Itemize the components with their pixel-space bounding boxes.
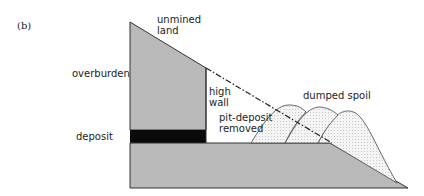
unmined-land-label-1: unmined xyxy=(157,14,201,25)
pit-deposit-label-2: removed xyxy=(219,123,263,134)
dumped-spoil-label: dumped spoil xyxy=(303,90,371,101)
deposit-label: deposit xyxy=(76,131,113,142)
high-wall-label-1: high xyxy=(209,86,231,97)
high-wall-label-2: wall xyxy=(209,97,229,108)
unmined-land-label-2: land xyxy=(157,25,179,36)
pit-deposit-label-1: pit-deposit xyxy=(219,112,273,123)
overburden-label: overburden xyxy=(72,68,130,79)
deposit-seam xyxy=(130,130,206,143)
overburden-block xyxy=(130,22,206,130)
panel-label: (b) xyxy=(17,20,31,31)
